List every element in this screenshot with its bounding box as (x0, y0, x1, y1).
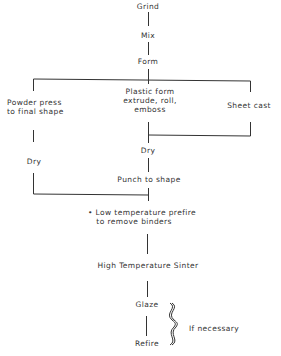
node-grind: Grind (137, 2, 160, 11)
node-powder-press: Powder press to final shape (7, 98, 64, 116)
node-dry-center: Dry (141, 146, 156, 155)
node-glaze: Glaze (135, 300, 158, 309)
edge-sheet-dry (149, 122, 251, 136)
node-prefire: • Low temperature prefire to remove bind… (88, 208, 196, 226)
ceramic-process-flowchart: Grind Mix Form Powder press to final sha… (0, 0, 281, 356)
node-sinter: High Temperature Sinter (98, 261, 199, 270)
node-plastic-form: Plastic form extrude, roll, emboss (123, 87, 177, 114)
node-refire: Refire (135, 339, 159, 348)
annotation-if-necessary: If necessary (189, 324, 239, 333)
node-sheet-cast: Sheet cast (227, 101, 271, 110)
node-dry-left: Dry (27, 157, 42, 166)
node-form: Form (138, 57, 159, 66)
node-mix: Mix (141, 31, 155, 40)
node-punch: Punch to shape (117, 175, 180, 184)
